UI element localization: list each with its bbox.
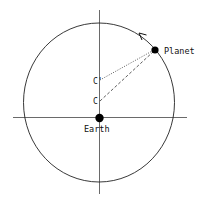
planet-label: Planet xyxy=(164,46,195,56)
c-prime-label: C' xyxy=(93,77,103,86)
planet-dot xyxy=(151,46,158,53)
c-label: C xyxy=(93,97,98,106)
earth-dot xyxy=(95,114,103,122)
earth-label: Earth xyxy=(84,124,110,134)
orbit-direction-arrow-icon xyxy=(139,33,147,40)
orbit-circle xyxy=(24,23,175,182)
orbit-diagram: Planet Earth C' C xyxy=(0,0,204,206)
c-to-planet-line xyxy=(100,51,154,101)
